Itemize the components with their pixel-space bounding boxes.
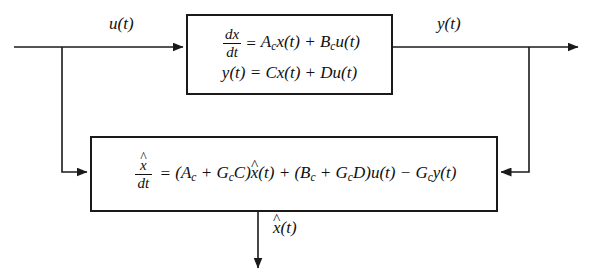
signal-label-x-hat: ^x(t) [273,218,297,238]
output-lhs: y(t) [222,64,246,82]
equals-sign: = [245,35,256,53]
numerator-x-hat: ^x [137,158,150,174]
input-branch-wire [62,47,87,172]
plant-state-space-block: dx dt = Acx(t) + Bcu(t) y(t) = Cx(t) + D… [186,14,393,95]
plant-state-equation: dx dt = Acx(t) + Bcu(t) [219,27,360,60]
output-feedback-wire [501,47,529,172]
block-diagram: dx dt = Acx(t) + Bcu(t) y(t) = Cx(t) + D… [0,0,601,275]
equals-sign: = [155,165,175,183]
derivative-fraction: dx dt [222,27,242,60]
signal-label-y: y(t) [437,14,461,34]
equals-sign: = [245,64,265,82]
plant-output-rhs: Cx(t) + Du(t) [265,64,357,82]
observer-equation: ^x dt = (Ac + GcC)^x(t) + (Bc + GcD)u(t)… [132,158,457,191]
observer-block: ^x dt = (Ac + GcC)^x(t) + (Bc + GcD)u(t)… [90,136,498,212]
observer-rhs: (Ac + GcC)^x(t) + (Bc + GcD)u(t) − Gcy(t… [175,164,456,184]
plant-state-rhs: Acx(t) + Bcu(t) [257,33,360,53]
signal-label-u: u(t) [109,14,134,34]
plant-output-equation: y(t) = Cx(t) + Du(t) [222,64,357,82]
estimate-derivative-fraction: ^x dt [135,158,153,191]
